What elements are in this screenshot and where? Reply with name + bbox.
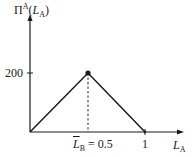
chart-canvas	[0, 0, 196, 157]
x-axis-arrow-icon	[177, 130, 184, 135]
peak-point-marker	[85, 70, 90, 75]
x-axis-label: LA	[173, 139, 185, 154]
y-axis-label-pi: Π	[14, 3, 23, 17]
x-tick-label-1: 1	[142, 138, 148, 150]
y-tick-label-200: 200	[5, 67, 23, 79]
x-tick-label-half-value: = 0.5	[85, 137, 113, 151]
profit-series-line	[30, 73, 145, 132]
x-tick-label-half: LB = 0.5	[73, 138, 113, 153]
x-axis-label-variable: L	[173, 138, 180, 152]
y-axis-label: ΠA(LA)	[14, 3, 49, 19]
x-axis-label-subscript: A	[180, 145, 186, 154]
end-point-marker	[144, 131, 146, 133]
x-tick-label-half-variable: L	[73, 137, 80, 151]
y-axis-label-close-paren: )	[45, 3, 49, 17]
